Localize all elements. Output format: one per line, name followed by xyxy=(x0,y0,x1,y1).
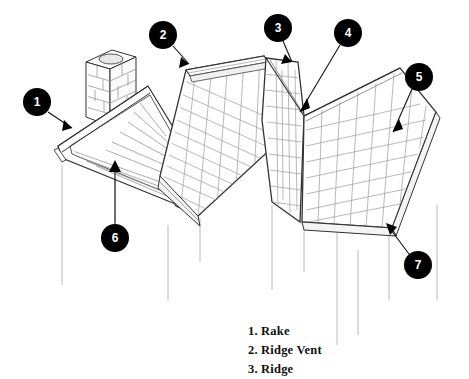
callout-1-label: 1 xyxy=(34,95,41,109)
hip-roof-slope xyxy=(302,68,440,236)
callout-6-label: 6 xyxy=(112,231,119,245)
callout-5-label: 5 xyxy=(416,70,423,84)
legend-item-2: 2. Ridge Vent xyxy=(248,341,448,360)
callout-7[interactable]: 7 xyxy=(386,223,432,279)
callout-3[interactable]: 3 xyxy=(264,14,292,64)
callout-2-label: 2 xyxy=(160,28,167,42)
callout-1[interactable]: 1 xyxy=(23,88,72,131)
ridge-panel xyxy=(262,58,306,222)
callout-4-label: 4 xyxy=(345,26,352,40)
legend: 1. Rake 2. Ridge Vent 3. Ridge xyxy=(248,322,448,379)
callout-3-label: 3 xyxy=(275,21,282,35)
callout-2[interactable]: 2 xyxy=(149,21,189,68)
legend-item-1: 1. Rake xyxy=(248,322,448,341)
legend-item-3: 3. Ridge xyxy=(248,360,448,379)
diagram-canvas: 1 2 3 4 xyxy=(0,0,469,379)
callout-7-label: 7 xyxy=(415,258,422,272)
